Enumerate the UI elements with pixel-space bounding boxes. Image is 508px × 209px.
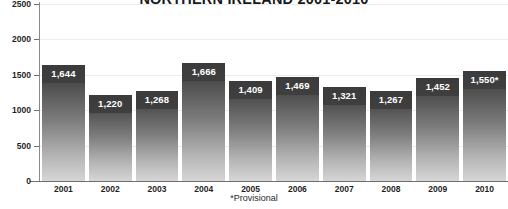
bar-value-label: 1,550*	[463, 71, 506, 89]
bar-value-label: 1,666	[182, 63, 225, 81]
y-tick-mark	[34, 146, 39, 147]
bar[interactable]: 1,321	[323, 87, 366, 181]
y-tick-label: 2500	[1, 0, 31, 9]
gridline	[40, 75, 508, 76]
y-tick-label: 2000	[1, 34, 31, 44]
y-tick-mark	[34, 4, 39, 5]
bar-value-label: 1,409	[229, 81, 272, 99]
bar-value-label: 1,469	[276, 77, 319, 95]
y-tick-label: 0	[1, 176, 31, 186]
bar-value-label: 1,644	[42, 65, 85, 83]
gridline	[40, 39, 508, 40]
bar-value-label: 1,452	[416, 78, 459, 96]
x-axis-line	[30, 181, 508, 182]
bar-value-label: 1,220	[89, 95, 132, 113]
bar[interactable]: 1,220	[89, 95, 132, 181]
bar[interactable]: 1,409	[229, 81, 272, 181]
bar-value-label: 1,321	[323, 87, 366, 105]
bar-chart: NORTHERN IRELAND 2001-2010 1,6441,2201,2…	[0, 0, 508, 209]
y-tick-label: 500	[1, 141, 31, 151]
bar-value-label: 1,268	[136, 91, 179, 109]
footnote: *Provisional	[0, 193, 508, 203]
bar[interactable]: 1,267	[370, 91, 413, 181]
plot-area: 1,6441,2201,2681,6661,4091,4691,3211,267…	[40, 4, 508, 181]
y-tick-mark	[34, 181, 39, 182]
bar[interactable]: 1,644	[42, 65, 85, 181]
y-tick-mark	[34, 110, 39, 111]
bar[interactable]: 1,666	[182, 63, 225, 181]
gridline	[40, 4, 508, 5]
y-tick-mark	[34, 39, 39, 40]
bar[interactable]: 1,452	[416, 78, 459, 181]
y-tick-mark	[34, 75, 39, 76]
bar[interactable]: 1,550*	[463, 71, 506, 181]
y-tick-label: 1000	[1, 105, 31, 115]
bar[interactable]: 1,268	[136, 91, 179, 181]
bar-value-label: 1,267	[370, 91, 413, 109]
bar[interactable]: 1,469	[276, 77, 319, 181]
y-tick-label: 1500	[1, 70, 31, 80]
